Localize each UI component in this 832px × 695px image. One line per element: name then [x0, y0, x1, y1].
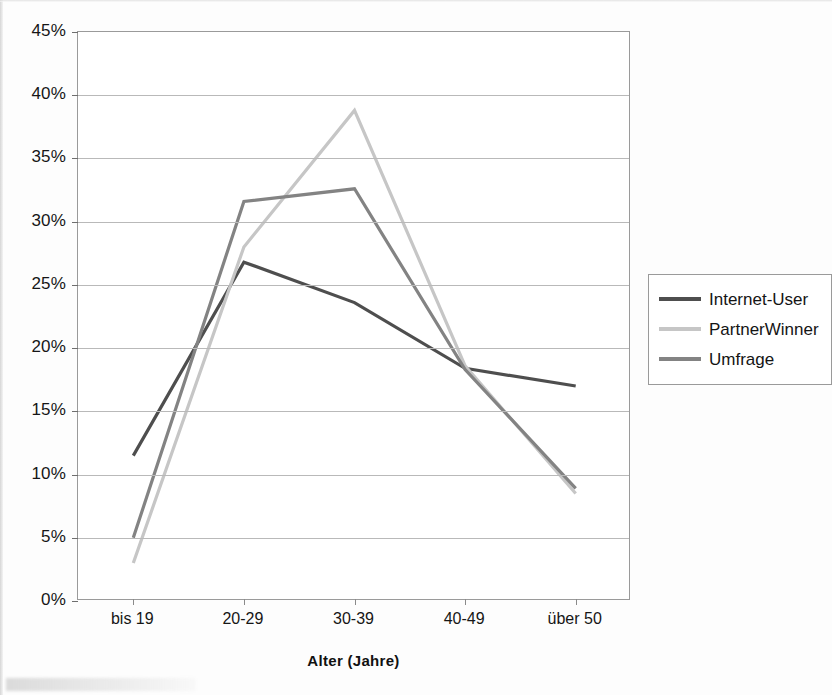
y-axis-tick-label: 30%: [31, 211, 66, 231]
x-axis-tick: [355, 599, 356, 605]
legend-item-partnerwinner[interactable]: PartnerWinner: [659, 314, 819, 344]
scan-edge-top: [0, 0, 832, 2]
gridline: [78, 475, 629, 476]
line-swatch-light-icon: [659, 327, 701, 331]
x-axis-tick-label: über 50: [548, 610, 602, 628]
y-axis-tick: [72, 411, 78, 412]
y-axis-tick-label: 15%: [31, 400, 66, 420]
y-axis-tick-label: 10%: [31, 464, 66, 484]
y-axis-tick: [72, 285, 78, 286]
y-axis-tick: [72, 348, 78, 349]
chart-legend: Internet-User PartnerWinner Umfrage: [648, 274, 832, 385]
y-axis-tick-label: 25%: [31, 274, 66, 294]
gridline: [78, 222, 629, 223]
y-axis-tick-label: 0%: [41, 590, 66, 610]
gridline: [78, 411, 629, 412]
x-axis-tick: [465, 599, 466, 605]
y-axis-tick-label: 35%: [31, 147, 66, 167]
legend-item-internet-user[interactable]: Internet-User: [659, 284, 819, 314]
x-axis-tick-label: bis 19: [111, 610, 154, 628]
legend-label-partnerwinner: PartnerWinner: [709, 321, 819, 338]
legend-item-umfrage[interactable]: Umfrage: [659, 344, 819, 374]
y-axis-tick-label: 45%: [31, 21, 66, 41]
scan-artifact-smudge: [6, 678, 196, 691]
line-swatch-medium-icon: [659, 357, 701, 361]
series-line-umfrage: [133, 189, 575, 538]
x-axis-tick: [576, 599, 577, 605]
x-axis-tick-label: 30-39: [333, 610, 374, 628]
y-axis-tick: [72, 475, 78, 476]
x-axis-tick: [133, 599, 134, 605]
y-axis-tick: [72, 601, 78, 602]
y-axis-tick-label: 20%: [31, 337, 66, 357]
gridline: [78, 538, 629, 539]
y-axis-tick: [72, 95, 78, 96]
series-line-internet-user: [133, 262, 575, 455]
gridline: [78, 285, 629, 286]
line-swatch-dark-icon: [659, 297, 701, 301]
x-axis-title: Alter (Jahre): [77, 652, 630, 669]
y-axis-tick-label: 40%: [31, 84, 66, 104]
plot-area: [77, 31, 630, 600]
legend-label-umfrage: Umfrage: [709, 351, 774, 368]
x-axis-tick-label: 40-49: [444, 610, 485, 628]
gridline: [78, 95, 629, 96]
y-axis-tick-label: 5%: [41, 527, 66, 547]
gridline: [78, 348, 629, 349]
y-axis-tick-labels: 0%5%10%15%20%25%30%35%40%45%: [0, 31, 66, 600]
y-axis-tick: [72, 158, 78, 159]
x-axis-tick-label: 20-29: [222, 610, 263, 628]
x-axis-tick-labels: bis 1920-2930-3940-49über 50: [77, 610, 630, 636]
y-axis-tick: [72, 222, 78, 223]
gridline: [78, 158, 629, 159]
x-axis-tick: [244, 599, 245, 605]
legend-label-internet-user: Internet-User: [709, 291, 808, 308]
y-axis-tick: [72, 32, 78, 33]
y-axis-tick: [72, 538, 78, 539]
line-series-canvas: [78, 32, 631, 601]
